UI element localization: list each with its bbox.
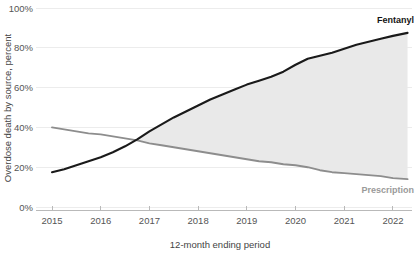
y-axis-tick-label: 80% bbox=[14, 42, 34, 53]
overdose-source-line-chart: 0%20%40%60%80%100% 201520162017201820192… bbox=[0, 0, 417, 255]
series-label-fentanyl: Fentanyl bbox=[377, 15, 414, 25]
y-axis-tick-label: 60% bbox=[14, 82, 34, 93]
y-axis-tick-label: 0% bbox=[19, 202, 33, 213]
x-axis-tick-label: 2020 bbox=[285, 215, 306, 226]
y-axis-tick-label: 40% bbox=[14, 122, 34, 133]
x-axis-tick-label: 2016 bbox=[90, 215, 111, 226]
y-axis-title: Overdose death by source, percent bbox=[2, 33, 13, 182]
chart-container: 0%20%40%60%80%100% 201520162017201820192… bbox=[0, 0, 417, 255]
x-axis-tick-label: 2022 bbox=[382, 215, 403, 226]
x-axis-tick-label: 2019 bbox=[236, 215, 257, 226]
x-axis-title: 12-month ending period bbox=[170, 239, 270, 250]
series-label-prescription: Prescription bbox=[361, 185, 414, 195]
x-axis-tick-label: 2021 bbox=[334, 215, 355, 226]
x-axis-tick-label: 2018 bbox=[188, 215, 209, 226]
y-axis-tick-label: 20% bbox=[14, 162, 34, 173]
y-axis-tick-label: 100% bbox=[9, 3, 34, 14]
x-axis-tick-label: 2015 bbox=[41, 215, 62, 226]
x-axis-tick-label: 2017 bbox=[139, 215, 160, 226]
